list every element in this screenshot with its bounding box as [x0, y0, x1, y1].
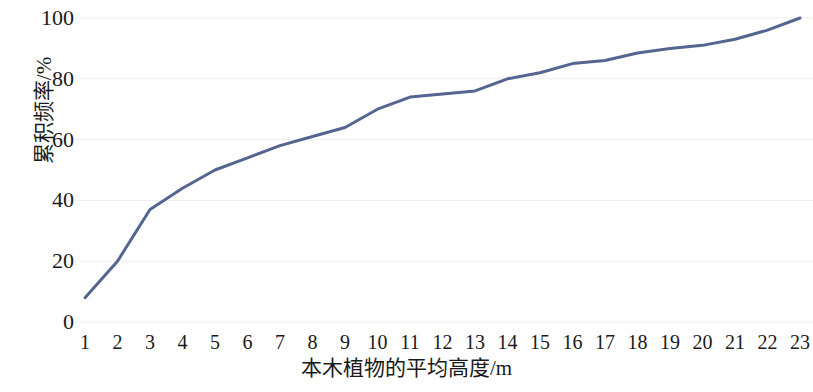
x-tick-label: 9 — [340, 332, 350, 352]
x-tick-label: 21 — [725, 332, 745, 352]
x-axis-tick-labels: 1234567891011121314151617181920212223 — [0, 0, 813, 392]
x-tick-label: 2 — [113, 332, 123, 352]
x-tick-label: 17 — [595, 332, 615, 352]
x-axis-title: 本木植物的平均高度/m — [0, 358, 813, 379]
x-tick-label: 10 — [368, 332, 388, 352]
x-tick-label: 5 — [210, 332, 220, 352]
x-tick-label: 18 — [628, 332, 648, 352]
x-tick-label: 11 — [400, 332, 419, 352]
x-tick-label: 16 — [563, 332, 583, 352]
x-tick-label: 14 — [498, 332, 518, 352]
x-tick-label: 12 — [433, 332, 453, 352]
x-tick-label: 8 — [308, 332, 318, 352]
x-tick-label: 19 — [660, 332, 680, 352]
x-tick-label: 20 — [693, 332, 713, 352]
x-tick-label: 6 — [243, 332, 253, 352]
x-tick-label: 1 — [80, 332, 90, 352]
x-tick-label: 23 — [790, 332, 810, 352]
x-tick-label: 22 — [758, 332, 778, 352]
chart-figure: 累积频率/% 020406080100 12345678910111213141… — [0, 0, 813, 392]
x-tick-label: 13 — [465, 332, 485, 352]
x-tick-label: 15 — [530, 332, 550, 352]
x-tick-label: 4 — [178, 332, 188, 352]
x-tick-label: 3 — [145, 332, 155, 352]
x-tick-label: 7 — [275, 332, 285, 352]
